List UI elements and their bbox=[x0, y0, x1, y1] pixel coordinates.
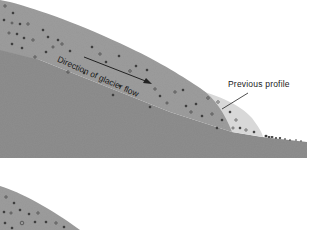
previous-profile-label: Previous profile bbox=[228, 79, 290, 89]
lower-glacier-ice bbox=[0, 186, 80, 230]
lower-panel bbox=[0, 186, 80, 230]
glacier-diagram: Direction of glacier flow Previous profi… bbox=[0, 0, 311, 230]
